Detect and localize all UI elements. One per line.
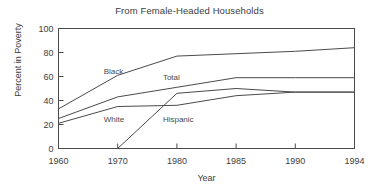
y-tick-label: 40 (43, 96, 53, 106)
y-tick-label: 80 (43, 48, 53, 58)
x-tick-label: 1980 (167, 156, 187, 166)
plot-frame (59, 29, 355, 149)
x-tick-label: 1970 (108, 156, 128, 166)
x-tick-label: 1960 (48, 156, 68, 166)
x-tick-label: 1994 (344, 156, 364, 166)
x-tick-label: 1990 (285, 156, 305, 166)
y-tick-label: 100 (38, 24, 53, 34)
x-tick-label: 1985 (226, 156, 246, 166)
series-label-total: Total (163, 73, 180, 82)
y-tick-label: 0 (48, 144, 53, 154)
x-axis-ticks: 196019701980198519901994 (48, 144, 364, 166)
chart-figure: From Female-Headed Households Percent in… (0, 0, 379, 192)
series-line-hispanic (118, 89, 355, 149)
series-lines (59, 48, 355, 149)
plot-area: 020406080100 196019701980198519901994 Bl… (0, 0, 379, 192)
series-line-black (59, 48, 355, 109)
series-label-hispanic: Hispanic (163, 115, 194, 124)
series-label-white: White (104, 115, 125, 124)
series-annotations: BlackTotalWhiteHispanic (104, 67, 194, 124)
y-tick-label: 60 (43, 72, 53, 82)
series-label-black: Black (104, 67, 125, 76)
y-axis-ticks: 020406080100 (38, 24, 63, 154)
y-tick-label: 20 (43, 120, 53, 130)
